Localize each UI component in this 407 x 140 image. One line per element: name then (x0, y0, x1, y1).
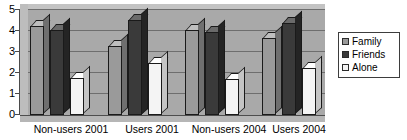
bar-friends-2 (205, 32, 219, 115)
legend-label: Friends (352, 50, 385, 60)
bar-alone-3 (302, 68, 316, 115)
bar-alone-2-side (238, 67, 245, 114)
legend-swatch-icon (342, 64, 349, 71)
bar-alone-2 (225, 79, 239, 115)
bar-friends-1-side (141, 7, 148, 114)
bar-friends-2-side (218, 20, 225, 114)
x-axis-labels: Non-users 2001 Users 2001 Non-users 2004… (0, 123, 330, 140)
bar-chart: 5 4 3 2 1 0 Non-users 2001 Users 2001 No… (0, 0, 407, 140)
bar-family-3 (262, 38, 276, 115)
legend-item-family: Family (342, 35, 396, 48)
legend-label: Family (352, 37, 381, 47)
bar-friends-0 (50, 30, 64, 115)
bar-friends-3-side (295, 10, 302, 114)
bar-alone-3-side (315, 55, 322, 113)
bar-alone-0 (70, 78, 84, 115)
bar-family-1 (108, 46, 122, 115)
bar-alone-0-side (83, 66, 90, 114)
x-axis-label-2: Non-users 2004 (186, 123, 272, 136)
bar-friends-3 (282, 23, 296, 115)
bar-friends-1 (128, 20, 142, 116)
bar-friends-0-side (63, 18, 70, 114)
bar-family-0-side (43, 13, 50, 113)
legend-label: Alone (352, 63, 378, 73)
legend-swatch-icon (342, 38, 349, 45)
x-axis-label-3: Users 2004 (266, 123, 332, 136)
legend-item-alone: Alone (342, 61, 396, 74)
legend-item-friends: Friends (342, 48, 396, 61)
bar-family-0 (30, 26, 44, 115)
x-axis-label-0: Non-users 2001 (28, 123, 114, 136)
legend: Family Friends Alone (338, 32, 400, 78)
bar-family-1-side (121, 33, 128, 114)
bar-family-3-side (275, 26, 282, 114)
legend-swatch-icon (342, 51, 349, 58)
x-axis-label-1: Users 2001 (115, 123, 189, 136)
bar-family-2 (185, 30, 199, 115)
bar-alone-1 (148, 63, 162, 115)
bar-alone-1-side (161, 50, 168, 114)
